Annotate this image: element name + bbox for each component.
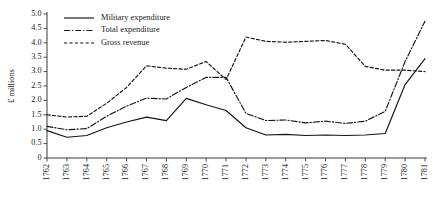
y-tick-label: 2.5 bbox=[31, 81, 41, 90]
line-chart: 00.51.01.52.02.53.03.54.04.55.0 17621763… bbox=[0, 0, 439, 199]
x-tick-label: 1768 bbox=[161, 164, 170, 180]
x-tick-label: 1779 bbox=[380, 164, 389, 180]
y-axis: 00.51.01.52.02.53.03.54.04.55.0 bbox=[31, 9, 47, 162]
y-tick-label: 0 bbox=[37, 153, 41, 162]
y-tick-label: 2.0 bbox=[31, 95, 41, 104]
series-line bbox=[47, 59, 425, 138]
y-tick-label: 4.0 bbox=[31, 38, 41, 47]
x-tick-label: 1778 bbox=[360, 164, 369, 180]
y-tick-label: 0.5 bbox=[31, 138, 41, 147]
legend-label: Gross revenue bbox=[101, 38, 149, 47]
x-tick-label: 1781 bbox=[420, 164, 429, 180]
y-tick-label: 1.0 bbox=[31, 124, 41, 133]
x-tick-label: 1766 bbox=[121, 164, 130, 180]
x-tick-label: 1776 bbox=[320, 164, 329, 180]
y-tick-label: 4.5 bbox=[31, 23, 41, 32]
x-tick-label: 1772 bbox=[241, 164, 250, 180]
x-tick-label: 1773 bbox=[261, 164, 270, 180]
x-tick-label: 1767 bbox=[141, 164, 150, 180]
x-tick-label: 1762 bbox=[42, 164, 51, 180]
series-line bbox=[47, 37, 425, 117]
x-tick-label: 1770 bbox=[201, 164, 210, 180]
legend-label: Military expenditure bbox=[101, 13, 170, 22]
x-tick-label: 1774 bbox=[281, 164, 290, 180]
x-tick-label: 1765 bbox=[102, 164, 111, 180]
y-tick-label: 3.5 bbox=[31, 52, 41, 61]
y-tick-label: 1.5 bbox=[31, 110, 41, 119]
x-tick-label: 1777 bbox=[340, 164, 349, 180]
y-tick-label: 3.0 bbox=[31, 66, 41, 75]
x-tick-label: 1763 bbox=[62, 164, 71, 180]
x-tick-label: 1771 bbox=[221, 164, 230, 180]
y-tick-label: 5.0 bbox=[31, 9, 41, 18]
x-axis: 1762176317641765176617671768176917701771… bbox=[42, 158, 429, 180]
x-tick-label: 1780 bbox=[400, 164, 409, 180]
chart-legend: Military expenditureTotal expenditureGro… bbox=[64, 13, 170, 47]
legend-label: Total expenditure bbox=[101, 25, 160, 34]
chart-figure: 00.51.01.52.02.53.03.54.04.55.0 17621763… bbox=[0, 0, 439, 199]
x-tick-label: 1769 bbox=[181, 164, 190, 180]
x-tick-label: 1775 bbox=[301, 164, 310, 180]
x-tick-label: 1764 bbox=[82, 164, 91, 180]
y-axis-title: £ millions bbox=[7, 69, 16, 103]
